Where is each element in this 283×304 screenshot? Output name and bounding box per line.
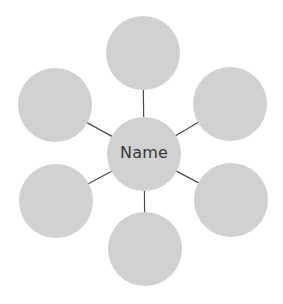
center-node-label: Name [104, 143, 184, 163]
node-circle-lower-right [194, 163, 268, 237]
node-circle-top [106, 16, 180, 90]
connector-line-lower-left [87, 171, 113, 185]
node-circle-lower-left [19, 164, 93, 238]
connector-line-lower-right [175, 170, 200, 183]
node-circle-bottom [108, 212, 182, 286]
node-circle-upper-right [193, 67, 267, 141]
connector-line-upper-left [86, 122, 114, 137]
connector-line-upper-right [174, 122, 199, 137]
node-circle-upper-left [18, 68, 92, 142]
